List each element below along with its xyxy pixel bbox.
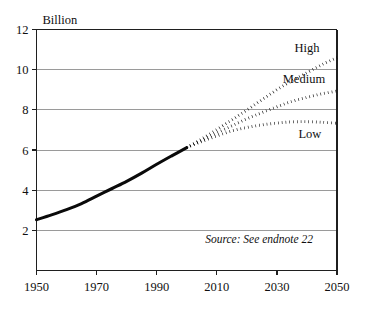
source-note: Source: See endnote 22 <box>205 233 313 245</box>
y-tick-label-6: 6 <box>22 144 28 158</box>
x-tick-label-1950: 1950 <box>24 280 49 294</box>
population-projection-chart: 24681012 195019701990201020302050 Billio… <box>0 0 365 309</box>
y-tick-label-4: 4 <box>22 184 29 198</box>
x-tick-label-1990: 1990 <box>144 280 169 294</box>
y-tick-label-8: 8 <box>22 103 28 117</box>
series-label-medium: Medium <box>283 72 326 86</box>
y-axis-title: Billion <box>43 13 78 27</box>
series-label-low: Low <box>298 127 321 141</box>
y-tick-label-12: 12 <box>16 23 29 37</box>
series-label-high: High <box>294 41 320 55</box>
x-tick-label-1970: 1970 <box>84 280 109 294</box>
chart-canvas: 24681012 195019701990201020302050 Billio… <box>0 0 365 309</box>
y-tick-label-10: 10 <box>16 63 29 77</box>
y-tick-label-2: 2 <box>22 224 28 238</box>
x-tick-label-2030: 2030 <box>264 280 289 294</box>
x-tick-label-2010: 2010 <box>204 280 229 294</box>
x-tick-label-2050: 2050 <box>325 280 350 294</box>
